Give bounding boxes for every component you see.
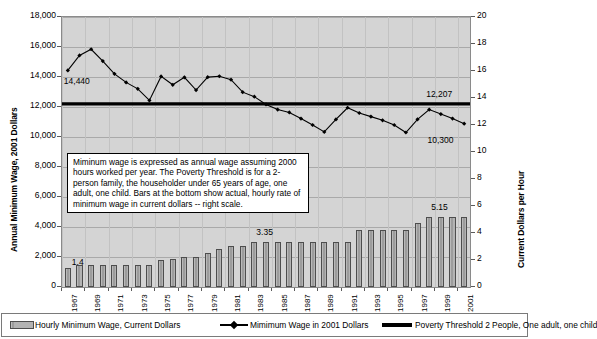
y-tick-label: 6,000 bbox=[4, 191, 56, 199]
data-point-marker bbox=[380, 118, 384, 122]
secondary-y-tick-mark bbox=[471, 286, 475, 287]
x-tick-label: 1967 bbox=[71, 294, 79, 312]
secondary-y-tick-mark bbox=[471, 16, 475, 17]
x-tick-label: 1971 bbox=[117, 294, 125, 312]
x-tick-label: 1993 bbox=[374, 294, 382, 312]
secondary-y-tick-mark bbox=[471, 259, 475, 260]
y-tick-label: 0 bbox=[4, 281, 56, 289]
bar-swatch-icon bbox=[10, 321, 34, 329]
x-tick-label: 1985 bbox=[281, 294, 289, 312]
secondary-y-tick-mark bbox=[471, 124, 475, 125]
legend-item-threshold: Poverty Threshold 2 People, One adult, o… bbox=[382, 320, 597, 330]
y-tick-label: 14,000 bbox=[4, 71, 56, 79]
data-point-marker bbox=[462, 122, 466, 126]
y-tick-label: 2,000 bbox=[4, 251, 56, 259]
data-point-marker bbox=[439, 112, 443, 116]
x-tick-label: 1969 bbox=[94, 294, 102, 312]
x-tick-label: 1975 bbox=[164, 294, 172, 312]
data-label-3-35: 3.35 bbox=[256, 228, 273, 237]
y-tick-label: 8,000 bbox=[4, 161, 56, 169]
x-tick-label: 1997 bbox=[421, 294, 429, 312]
x-tick-label: 1995 bbox=[397, 294, 405, 312]
legend-label-bar: Hourly Minimum Wage, Current Dollars bbox=[35, 320, 180, 330]
data-point-marker bbox=[369, 115, 373, 119]
x-tick-label: 1977 bbox=[187, 294, 195, 312]
data-label-14440: 14,440 bbox=[64, 77, 90, 86]
y-tick-label: 18,000 bbox=[4, 11, 56, 19]
secondary-y-tick-label: 6 bbox=[477, 200, 503, 208]
chart-legend: Hourly Minimum Wage, Current Dollars Mim… bbox=[1, 313, 528, 337]
secondary-y-tick-mark bbox=[471, 205, 475, 206]
legend-label-threshold: Poverty Threshold 2 People, One adult, o… bbox=[415, 320, 597, 330]
wage-2001-dollars-line bbox=[68, 49, 464, 132]
data-point-marker bbox=[287, 110, 291, 114]
secondary-y-tick-label: 4 bbox=[477, 227, 503, 235]
data-label-1-4: 1.4 bbox=[72, 258, 84, 267]
legend-label-line: Mimimum Wage in 2001 Dollars bbox=[250, 320, 368, 330]
secondary-y-tick-label: 14 bbox=[477, 92, 503, 100]
secondary-y-tick-mark bbox=[471, 232, 475, 233]
secondary-y-tick-mark bbox=[471, 97, 475, 98]
secondary-y-tick-mark bbox=[471, 43, 475, 44]
line-series bbox=[62, 17, 470, 287]
thick-line-swatch-icon bbox=[382, 323, 412, 327]
x-tick-label: 1989 bbox=[327, 294, 335, 312]
x-tick-label: 1981 bbox=[234, 294, 242, 312]
legend-item-bar: Hourly Minimum Wage, Current Dollars bbox=[10, 320, 180, 330]
data-label-12207: 12,207 bbox=[426, 90, 452, 99]
secondary-y-axis-title: Current Dollars per Hour bbox=[516, 171, 526, 268]
secondary-y-tick-label: 2 bbox=[477, 254, 503, 262]
x-tick-label: 1983 bbox=[257, 294, 265, 312]
data-point-marker bbox=[357, 111, 361, 115]
x-tick-label: 2001 bbox=[467, 294, 475, 312]
plot-top-margin bbox=[61, 10, 471, 15]
x-tick-label: 1999 bbox=[444, 294, 452, 312]
x-tick-label: 1987 bbox=[304, 294, 312, 312]
data-point-marker bbox=[217, 74, 221, 78]
secondary-y-tick-mark bbox=[471, 178, 475, 179]
data-label-10300: 10,300 bbox=[428, 136, 454, 145]
secondary-y-tick-mark bbox=[471, 151, 475, 152]
data-point-marker bbox=[299, 116, 303, 120]
note-text: Miminum wage is expressed as annual wage… bbox=[73, 157, 300, 209]
y-axis-title: Annual Minimum Wage, 2001 Dollars bbox=[9, 107, 19, 252]
x-tick-label: 1973 bbox=[141, 294, 149, 312]
secondary-y-tick-label: 8 bbox=[477, 173, 503, 181]
y-tick-label: 10,000 bbox=[4, 131, 56, 139]
line-diamond-swatch-icon bbox=[220, 321, 248, 329]
plot-area: 14,44012,20710,3001.43.355.15 bbox=[61, 16, 471, 288]
secondary-y-tick-label: 12 bbox=[477, 119, 503, 127]
y-tick-label: 16,000 bbox=[4, 41, 56, 49]
secondary-y-tick-label: 10 bbox=[477, 146, 503, 154]
data-label-5-15: 5.15 bbox=[431, 203, 448, 212]
legend-item-line: Mimimum Wage in 2001 Dollars bbox=[220, 320, 368, 330]
secondary-y-tick-label: 18 bbox=[477, 38, 503, 46]
secondary-y-tick-mark bbox=[471, 70, 475, 71]
data-point-marker bbox=[276, 107, 280, 111]
x-tick-label: 1991 bbox=[351, 294, 359, 312]
secondary-y-tick-label: 20 bbox=[477, 11, 503, 19]
secondary-y-tick-label: 0 bbox=[477, 281, 503, 289]
data-point-marker bbox=[450, 116, 454, 120]
y-tick-label: 12,000 bbox=[4, 101, 56, 109]
y-tick-label: 4,000 bbox=[4, 221, 56, 229]
secondary-y-tick-label: 16 bbox=[477, 65, 503, 73]
note-textbox: Miminum wage is expressed as annual wage… bbox=[67, 153, 309, 213]
x-tick-label: 1979 bbox=[211, 294, 219, 312]
